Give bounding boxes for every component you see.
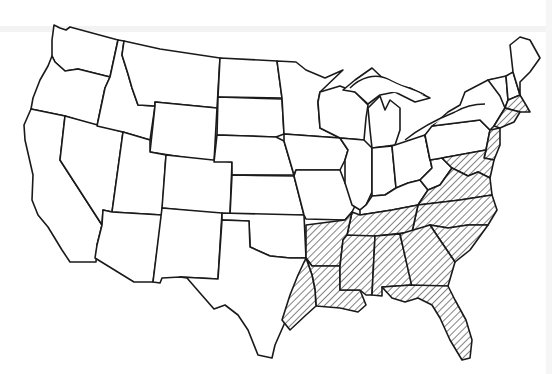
state-south-dakota	[217, 97, 284, 137]
state-michigan-lp	[368, 96, 400, 148]
state-north-dakota	[218, 58, 282, 98]
us-map	[0, 0, 552, 374]
state-kansas	[230, 175, 304, 215]
state-montana	[122, 41, 220, 108]
state-colorado	[162, 155, 232, 215]
state-wyoming	[150, 102, 217, 162]
state-arizona	[95, 210, 162, 282]
state-florida	[382, 285, 472, 360]
state-iowa	[284, 134, 348, 175]
state-new-mexico	[153, 208, 222, 283]
state-mississippi	[340, 235, 375, 295]
